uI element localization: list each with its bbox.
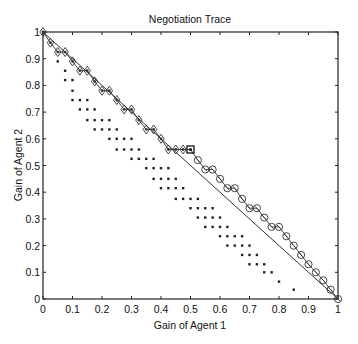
x-tick-label: 0.3	[124, 303, 139, 315]
dot-marker	[93, 108, 95, 110]
dot-marker	[197, 216, 199, 218]
square-center	[189, 148, 192, 151]
dot-marker	[175, 187, 177, 189]
dot-marker	[211, 226, 213, 228]
circle-slash	[196, 158, 200, 162]
dot-marker	[79, 108, 81, 110]
x-tick-label: 0.6	[213, 303, 228, 315]
dot-marker	[175, 198, 177, 200]
x-tick-label: 0.5	[183, 303, 198, 315]
dot-marker	[86, 108, 88, 110]
dot-marker	[152, 178, 154, 180]
dot-marker	[101, 128, 103, 130]
dot-marker	[71, 90, 73, 92]
dot-marker	[211, 207, 213, 209]
dot-marker	[197, 198, 199, 200]
dot-marker	[123, 138, 125, 140]
dot-marker	[64, 79, 66, 81]
dot-marker	[182, 198, 184, 200]
dot-marker	[116, 148, 118, 150]
y-tick-label: 0.1	[25, 266, 40, 278]
diamond-center	[115, 99, 118, 102]
dot-marker	[160, 178, 162, 180]
dot-marker	[71, 79, 73, 81]
y-tick-label: 0.3	[25, 213, 40, 225]
explored-offer-dots	[57, 60, 295, 291]
diamond-center	[42, 31, 45, 34]
dot-marker	[167, 178, 169, 180]
dot-marker	[263, 263, 265, 265]
diamond-center	[167, 148, 170, 151]
diamond-center	[56, 51, 59, 54]
dot-marker	[130, 158, 132, 160]
y-tick-label: 0.8	[25, 79, 40, 91]
dot-marker	[241, 254, 243, 256]
dot-marker	[234, 244, 236, 246]
circle-slash	[299, 253, 303, 257]
dot-marker	[248, 263, 250, 265]
dot-marker	[293, 288, 295, 290]
dot-marker	[211, 216, 213, 218]
dot-marker	[219, 226, 221, 228]
dot-marker	[160, 167, 162, 169]
dot-marker	[219, 235, 221, 237]
x-tick-label: 0.4	[154, 303, 169, 315]
dot-marker	[204, 207, 206, 209]
circle-slash	[262, 216, 266, 220]
y-axis-label: Gain of Agent 2	[12, 129, 24, 202]
circle-slash	[314, 270, 318, 274]
dot-marker	[226, 244, 228, 246]
dot-marker	[226, 235, 228, 237]
dot-marker	[138, 148, 140, 150]
diamond-center	[86, 69, 89, 72]
y-axis-ticks: 00.10.20.30.40.50.60.70.80.91	[25, 26, 338, 305]
dot-marker	[130, 148, 132, 150]
dot-marker	[219, 216, 221, 218]
circle-slash	[321, 278, 325, 282]
dot-marker	[79, 99, 81, 101]
dot-marker	[256, 254, 258, 256]
y-tick-label: 0.2	[25, 240, 40, 252]
diamond-center	[108, 89, 111, 92]
dot-marker	[108, 128, 110, 130]
diamond-center	[93, 80, 96, 83]
dot-marker	[152, 167, 154, 169]
diamond-center	[78, 69, 81, 72]
dot-marker	[189, 198, 191, 200]
diamond-center	[123, 108, 126, 111]
dot-marker	[189, 207, 191, 209]
diamond-center	[182, 148, 185, 151]
diamond-center	[71, 60, 74, 63]
circle-slash	[240, 197, 244, 201]
dot-marker	[71, 99, 73, 101]
diamond-center	[152, 128, 155, 131]
dot-marker	[138, 158, 140, 160]
diamond-center	[64, 51, 67, 54]
dot-marker	[145, 158, 147, 160]
x-tick-label: 0.2	[95, 303, 110, 315]
dot-marker	[130, 138, 132, 140]
dot-marker	[241, 244, 243, 246]
x-tick-label: 1	[335, 303, 341, 315]
diamond-center	[130, 108, 133, 111]
diamond-center	[174, 148, 177, 151]
dot-marker	[64, 70, 66, 72]
circle-slash	[292, 244, 296, 248]
circle-slash	[218, 177, 222, 181]
dot-marker	[204, 216, 206, 218]
dot-marker	[108, 138, 110, 140]
dot-marker	[182, 187, 184, 189]
circle-slash	[307, 262, 311, 266]
dot-marker	[93, 119, 95, 121]
dot-marker	[160, 187, 162, 189]
x-tick-label: 0	[40, 303, 46, 315]
y-tick-label: 0.6	[25, 133, 40, 145]
x-tick-label: 0.7	[242, 303, 257, 315]
dot-marker	[270, 271, 272, 273]
dot-marker	[175, 178, 177, 180]
x-tick-label: 0.9	[301, 303, 316, 315]
dot-marker	[256, 263, 258, 265]
negotiation-trace-chart: Negotiation Trace 00.10.20.30.40.50.60.7…	[0, 0, 358, 344]
y-tick-label: 0.9	[25, 53, 40, 65]
dot-marker	[86, 99, 88, 101]
